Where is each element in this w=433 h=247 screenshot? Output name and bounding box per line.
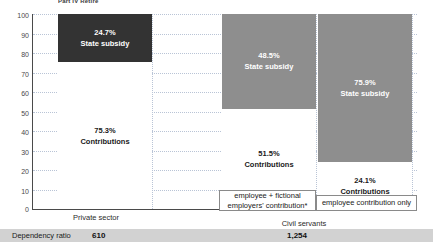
ytick-80: 80: [21, 51, 29, 58]
ytick-0: 0: [25, 206, 29, 213]
chart-page: Part IV Retire 100 90 80 70 60 50 40 30 …: [0, 0, 433, 247]
segment-value-label: 24.1%: [354, 175, 375, 186]
segment-name-label: Contributions: [80, 136, 129, 147]
ytick-100: 100: [17, 12, 29, 19]
page-title-text: Part IV Retire: [58, 0, 128, 4]
plot-area: 100 90 80 70 60 50 40 30 20 10 0: [32, 14, 417, 210]
dependency-ratio-row: Dependency ratio 610 1,254: [0, 229, 433, 242]
segment-name-label: Contributions: [244, 159, 293, 170]
callout-text: employee + fictional employers' contribu…: [223, 191, 312, 210]
category-label-civil-servants: Civil servants: [254, 219, 354, 228]
segment-value-label: 24.7%: [94, 27, 115, 38]
vsep-4: [316, 14, 317, 209]
y-axis-line: [32, 14, 33, 210]
segment-value-label: 75.3%: [94, 125, 115, 136]
page-title: Part IV Retire: [58, 0, 128, 4]
ytick-20: 20: [21, 168, 29, 175]
bar-civil-servants-employee-only[interactable]: 24.1% Contributions 75.9% State subsidy: [318, 14, 412, 209]
segment-contributions-private[interactable]: 75.3% Contributions: [58, 62, 152, 209]
vsep-5: [412, 14, 413, 209]
bar-private-sector[interactable]: 75.3% Contributions 24.7% State subsidy: [58, 14, 152, 209]
segment-name-label: State subsidy: [341, 88, 390, 99]
segment-state-subsidy-private[interactable]: 24.7% State subsidy: [58, 14, 152, 62]
callout-employee-only[interactable]: employee contribution only: [316, 195, 417, 211]
callout-employee-plus-employer[interactable]: employee + fictional employers' contribu…: [219, 190, 316, 211]
segment-name-label: State subsidy: [245, 61, 294, 72]
callout-text: employee contribution only: [322, 198, 411, 208]
segment-state-subsidy-civil-b[interactable]: 75.9% State subsidy: [318, 14, 412, 162]
ytick-60: 60: [21, 90, 29, 97]
dependency-ratio-value-private: 610: [92, 231, 105, 240]
ytick-30: 30: [21, 148, 29, 155]
ytick-10: 10: [21, 187, 29, 194]
category-label-private-sector: Private sector: [46, 213, 146, 222]
dependency-ratio-label: Dependency ratio: [12, 231, 71, 240]
bar-civil-servants-with-employer[interactable]: 51.5% Contributions 48.5% State subsidy: [222, 14, 316, 209]
ytick-40: 40: [21, 129, 29, 136]
ytick-70: 70: [21, 70, 29, 77]
segment-state-subsidy-civil-a[interactable]: 48.5% State subsidy: [222, 14, 316, 109]
dependency-ratio-value-civil: 1,254: [287, 231, 307, 240]
segment-value-label: 75.9%: [354, 77, 375, 88]
vsep-2: [152, 14, 153, 209]
segment-value-label: 51.5%: [258, 148, 279, 159]
segment-value-label: 48.5%: [258, 50, 279, 61]
ytick-50: 50: [21, 109, 29, 116]
segment-name-label: State subsidy: [81, 38, 130, 49]
ytick-90: 90: [21, 31, 29, 38]
